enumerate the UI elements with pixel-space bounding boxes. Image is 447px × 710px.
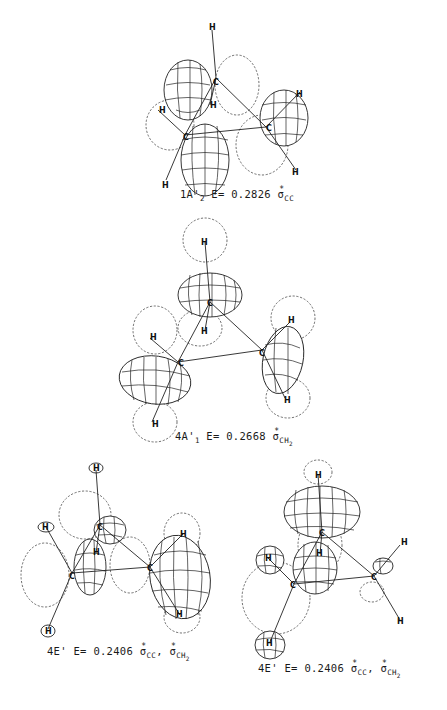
atom-label: C [259,349,265,358]
atom-label: H [201,327,208,336]
atom-label: H [152,420,159,429]
energy-value: 0.2406 [304,662,344,674]
orbital-plot-1a2: H C H H C C H H H [0,0,447,210]
atom-label: H [265,554,272,563]
energy-value: 0.2826 [231,188,271,200]
orbital-panel-4e-left: H C H H C C H H H 4E' E= 0.2406 σ*CC, σ*… [0,455,240,670]
atom-label: H [397,617,404,626]
atom-label: H [315,471,322,480]
orbital-caption-4e-left: 4E' E= 0.2406 σ*CC, σ*CH2 [47,645,190,657]
energy-value: 0.2668 [226,430,266,442]
orbital-plot-4a1: H C H H C C H H H [0,210,447,445]
atom-label: H [176,610,183,619]
atom-label: C [69,572,75,581]
atom-label: H [42,523,49,532]
atom-label: H [150,333,157,342]
atom-label: H [93,548,100,557]
atom-label: H [201,238,208,247]
state-label: 4E' [47,645,67,657]
atom-label: H [162,181,169,190]
energy-label: E= [206,430,219,442]
orbital-panel-4a1: H C H H C C H H H 4A'1 E= 0.2668 σ*CH2 [0,210,447,445]
state-label: 4E' [258,662,278,674]
atom-label: C [371,573,377,582]
energy-value: 0.2406 [93,645,133,657]
atom-label: C [213,78,219,87]
orbital-panel-4e-right: H C H H C C H H H 4E' E= 0.2406 σ*CC, σ*… [240,450,447,710]
atom-label: C [319,529,325,538]
atom-label: H [159,106,166,115]
atom-label: H [284,396,291,405]
atom-label: H [292,168,299,177]
atom-label: C [266,124,272,133]
atom-label: H [93,464,100,473]
state-label: 4A' [175,430,195,442]
atom-label: C [97,523,103,532]
atom-label: C [207,299,213,308]
atom-label: H [296,90,303,99]
atom-label: H [266,639,273,648]
atom-label: C [147,564,153,573]
atom-label: H [288,316,295,325]
orbital-panel-1a2: H C H H C C H H H 1A'2 E= 0.2826 σ*CC [0,0,447,210]
energy-label: E= [285,662,298,674]
atom-label: C [183,133,189,142]
orbital-caption-4e-right: 4E' E= 0.2406 σ*CC, σ*CH2 [258,662,401,674]
orbital-caption-1a2: 1A'2 E= 0.2826 σ*CC [180,188,294,200]
atom-label: H [209,23,216,32]
atom-label: C [178,359,184,368]
state-label: 1A' [180,188,200,200]
orbital-caption-4a1: 4A'1 E= 0.2668 σ*CH2 [175,430,293,442]
atom-label: H [45,627,52,636]
energy-label: E= [74,645,87,657]
atom-label: C [290,581,296,590]
energy-label: E= [211,188,224,200]
atom-label: H [210,101,217,110]
orbital-plot-4e-left: H C H H C C H H H [0,455,240,670]
atom-label: H [401,538,408,547]
atom-label: H [180,530,187,539]
atom-label: H [316,549,323,558]
